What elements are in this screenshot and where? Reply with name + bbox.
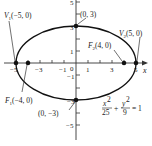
ellipse-diagram: −5 −3 −1 0 1 3 5 x 5 3 1 −1 −3 −5 V1(−5,… [0, 0, 152, 146]
f2-label: F2(4, 0) [87, 41, 112, 51]
y-tick-label: 3 [70, 24, 74, 32]
y-tick-label: 1 [70, 48, 74, 56]
v1-label: V1(−5, 0) [4, 11, 32, 21]
y-tick-label: −5 [66, 122, 74, 130]
covertex-top-point [74, 24, 79, 29]
x-tick-label: −3 [35, 66, 43, 74]
v1-leader-line [9, 21, 15, 61]
f1-label: F1(−4, 0) [4, 96, 33, 106]
bottom-label: (0, −3) [38, 109, 59, 118]
ellipse-equation: x 2 25 + y 2 9 = 1 [102, 95, 142, 117]
x-tick-label: 0 [70, 65, 74, 73]
svg-text:+: + [114, 104, 118, 113]
v2-label: V2(5, 0) [119, 29, 143, 39]
x-tick-label: 3 [110, 66, 114, 74]
y-tick-label: 5 [70, 0, 74, 7]
vertex-v1-point [14, 61, 19, 66]
y-tick-label: −1 [67, 73, 75, 81]
focus-f1-point [26, 61, 31, 66]
v2-leader-line [137, 37, 140, 61]
x-tick-label: −1 [59, 66, 67, 74]
svg-text:9: 9 [123, 108, 127, 117]
svg-text:25: 25 [102, 108, 110, 117]
x-axis-label: x [142, 66, 147, 75]
x-axis-arrow-icon [142, 61, 148, 66]
focus-f2-point [122, 61, 127, 66]
top-label: (0, 3) [80, 10, 97, 19]
f1-leader-line [22, 65, 27, 92]
y-axis [76, 0, 80, 140]
svg-text:2: 2 [107, 95, 111, 104]
svg-text:= 1: = 1 [132, 104, 142, 113]
f2-leader-line [114, 50, 122, 61]
svg-text:2: 2 [126, 95, 130, 104]
vertex-v2-point [134, 61, 139, 66]
x-tick-label: 1 [86, 66, 90, 74]
covertex-bottom-point [74, 98, 79, 103]
